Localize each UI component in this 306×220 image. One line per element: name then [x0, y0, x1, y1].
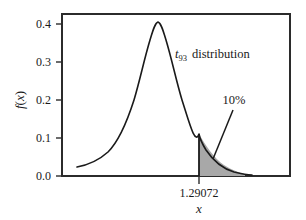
- y-tick-label-1: 0.3: [36, 55, 51, 69]
- y-tick-label-4: 0.0: [36, 169, 51, 183]
- x-tick-label: 1.29072: [180, 186, 219, 200]
- distribution-label-word: distribution: [192, 47, 250, 61]
- y-tick-label-0: 0.4: [36, 17, 51, 31]
- distribution-label-subscript: 93: [178, 53, 187, 63]
- y-axis-title-paren-close: ): [12, 91, 27, 95]
- density-plot-figure: 0.4 0.3 0.2 0.1 0.0 f(x) 1.29072 x t93di…: [0, 0, 306, 220]
- y-tick-label-3: 0.1: [36, 131, 51, 145]
- figure-container: 0.4 0.3 0.2 0.1 0.0 f(x) 1.29072 x t93di…: [0, 0, 306, 220]
- x-axis-title: x: [195, 201, 202, 216]
- y-tick-label-2: 0.2: [36, 93, 51, 107]
- y-axis-title: f(x): [12, 91, 27, 109]
- plot-frame: [62, 14, 290, 176]
- svg-text:f(x): f(x): [12, 91, 27, 109]
- percent-label: 10%: [223, 93, 246, 107]
